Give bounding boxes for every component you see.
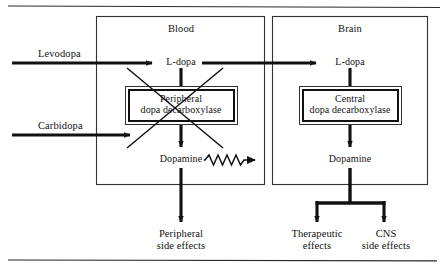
carbidopa-input-label: Carbidopa — [38, 120, 83, 132]
blood-dopamine-node-label: Dopamine — [158, 153, 204, 164]
peripheral-side-effects-label: Peripheral side effects — [157, 228, 206, 252]
peripheral-enzyme-label-line2: dopa decarboxylase — [141, 104, 222, 115]
therapeutic-effects-label: Therapeutic effects — [291, 228, 342, 252]
peripheral-enzyme-label-line1: Peripheral — [141, 93, 222, 104]
central-enzyme-label: Central dopa decarboxylase — [310, 93, 391, 115]
dopamine-wavy-arrow — [196, 155, 255, 165]
blood-compartment-label: Blood — [168, 23, 194, 35]
brain-dopamine-node-label: Dopamine — [327, 153, 373, 164]
page-rules — [8, 6, 440, 261]
brain-ldopa-node-label: L-dopa — [333, 56, 366, 67]
cns-side-effects-label: CNS side effects — [362, 228, 411, 252]
brain-compartment-label: Brain — [338, 23, 362, 35]
central-enzyme-label-line1: Central — [310, 93, 391, 104]
peripheral-side-effects-line2: side effects — [157, 240, 206, 252]
peripheral-enzyme-label: Peripheral dopa decarboxylase — [141, 93, 222, 115]
levodopa-input-label: Levodopa — [38, 48, 81, 60]
peripheral-side-effects-line1: Peripheral — [157, 228, 206, 240]
figure-pathway-diagram: Blood Brain Levodopa Carbidopa L-dopa L-… — [0, 0, 445, 268]
cns-side-effects-line1: CNS — [362, 228, 411, 240]
therapeutic-effects-line2: effects — [291, 240, 342, 252]
cns-side-effects-line2: side effects — [362, 240, 411, 252]
blood-ldopa-node-label: L-dopa — [164, 56, 197, 67]
therapeutic-effects-line1: Therapeutic — [291, 228, 342, 240]
central-enzyme-label-line2: dopa decarboxylase — [310, 104, 391, 115]
